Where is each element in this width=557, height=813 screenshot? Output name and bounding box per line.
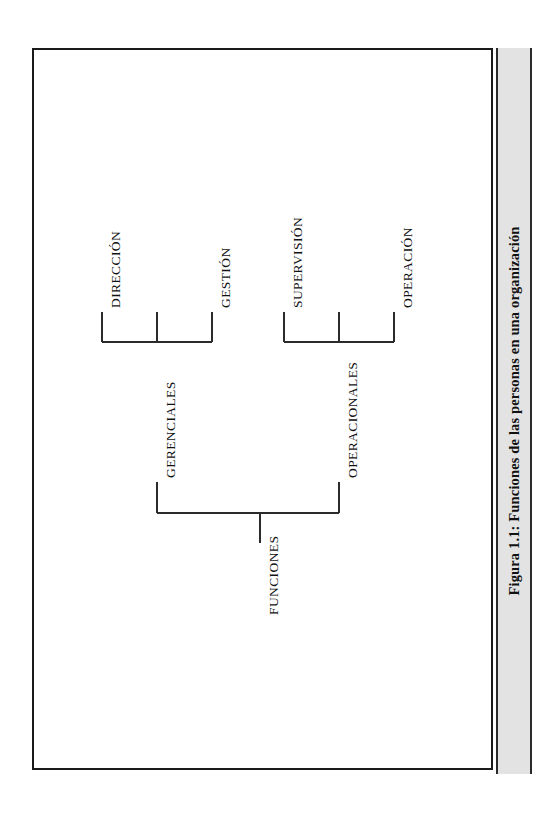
figure-caption-strip: Figura 1.1: Funciones de las personas en… [496, 48, 532, 774]
figure-caption-text: Figura 1.1: Funciones de las personas en… [506, 226, 523, 595]
node-label-operacion: OPERACIÓN [400, 227, 416, 308]
node-label-supervision: SUPERVISIÓN [290, 217, 306, 308]
diagram-connector-lines [34, 50, 495, 772]
node-label-gerenciales: GERENCIALES [163, 381, 179, 478]
node-label-funciones: FUNCIONES [266, 536, 282, 615]
figure-frame-box: FUNCIONES GERENCIALES OPERACIONALES DIRE… [32, 48, 493, 770]
scanned-page: FUNCIONES GERENCIALES OPERACIONALES DIRE… [0, 0, 557, 813]
node-label-gestion: GESTIÓN [218, 247, 234, 308]
node-label-direccion: DIRECCIÓN [108, 231, 124, 308]
organization-functions-diagram: FUNCIONES GERENCIALES OPERACIONALES DIRE… [34, 50, 495, 772]
node-label-operacionales: OPERACIONALES [345, 362, 361, 478]
